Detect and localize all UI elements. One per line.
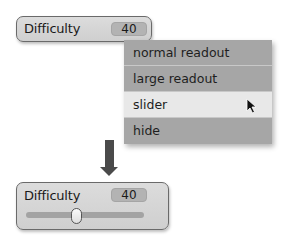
menu-item-large-readout[interactable]: large readout <box>124 66 272 92</box>
variable-name-label: Difficulty <box>24 21 80 36</box>
slider-knob[interactable] <box>71 208 82 224</box>
down-arrow-icon <box>105 140 114 168</box>
mouse-pointer-icon <box>246 98 258 114</box>
variable-value-readout: 40 <box>111 188 147 202</box>
menu-item-hide[interactable]: hide <box>124 118 272 144</box>
menu-item-slider[interactable]: slider <box>124 92 272 118</box>
variable-monitor-slider[interactable]: Difficulty 40 <box>16 182 169 230</box>
variable-name-label: Difficulty <box>24 188 80 203</box>
variable-monitor-normal[interactable]: Difficulty 40 <box>16 16 152 42</box>
down-arrow-head-icon <box>100 167 118 176</box>
slider-track[interactable] <box>26 212 144 218</box>
menu-item-label: large readout <box>133 71 217 86</box>
menu-item-label: normal readout <box>133 45 229 60</box>
menu-item-normal-readout[interactable]: normal readout <box>124 40 272 66</box>
menu-item-label: hide <box>133 123 160 138</box>
menu-item-label: slider <box>133 97 167 112</box>
monitor-context-menu: normal readout large readout slider hide <box>124 40 272 144</box>
variable-value-readout: 40 <box>111 22 147 36</box>
